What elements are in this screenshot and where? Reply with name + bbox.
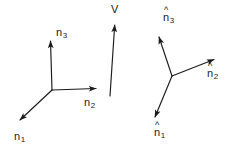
label-nhat2-base: n [207,67,213,79]
label-n1: n1 [14,131,25,144]
label-n3-base: n [56,26,62,38]
label-nhat2: ^n2 [207,68,218,81]
label-n2: n2 [84,97,95,110]
label-nhat2-subscript: 2 [213,72,218,81]
label-n3-subscript: 3 [62,31,67,40]
label-V-base: V [111,3,118,15]
label-n2-base: n [84,96,90,108]
label-nhat3: ^n3 [163,12,174,25]
label-n3: n3 [56,27,67,40]
vector-arrow-V [110,25,115,96]
right-triad-group [155,37,214,117]
label-nhat3-subscript: 3 [169,16,174,25]
label-nhat2-hatwrap: ^n [207,68,213,79]
label-nhat3-base: n [163,11,169,23]
label-nhat1-hatwrap: ^n [154,127,160,138]
vector-diagram: n1 n2 n3 V ^n1 ^n2 ^n3 [0,0,238,158]
label-n1-subscript: 1 [20,135,25,144]
label-nhat1: ^n1 [154,127,165,140]
label-nhat1-subscript: 1 [160,131,165,140]
label-nhat1-base: n [154,126,160,138]
label-n1-base: n [14,130,20,142]
vector-V-group [110,25,115,96]
axis-arrow-n3 [51,41,53,90]
label-n2-subscript: 2 [90,101,95,110]
vector-canvas [0,0,238,158]
axis-arrow-nhat1 [155,76,172,117]
axis-arrow-n2 [52,89,96,91]
axis-arrow-n1 [20,90,52,120]
label-nhat3-hatwrap: ^n [163,12,169,23]
label-V: V [111,4,118,15]
axis-arrow-nhat3 [159,37,172,76]
